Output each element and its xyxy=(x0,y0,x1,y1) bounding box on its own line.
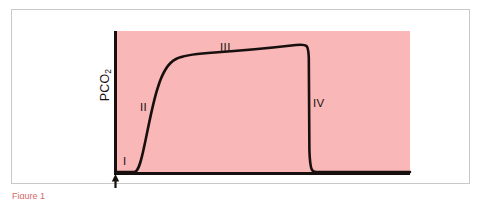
phase-label-iii: III xyxy=(220,42,231,54)
x-axis-line xyxy=(114,172,410,175)
capnogram-figure: PCO2 I II III IV Figure 1 xyxy=(0,0,483,199)
y-axis-label-text: PCO xyxy=(98,74,112,102)
figure-caption: Figure 1 xyxy=(12,191,312,199)
y-axis-label-subscript: 2 xyxy=(103,69,113,74)
phase-label-iv: IV xyxy=(313,98,325,110)
y-axis-line xyxy=(114,31,117,175)
phase-label-ii: II xyxy=(140,102,147,114)
phase-label-i: I xyxy=(123,156,127,168)
figure-card: PCO2 I II III IV xyxy=(11,9,470,184)
plot-background-panel xyxy=(117,31,410,173)
y-axis-label: PCO2 xyxy=(98,53,112,117)
start-of-expiration-arrow-icon xyxy=(112,174,119,188)
